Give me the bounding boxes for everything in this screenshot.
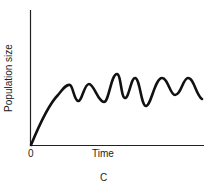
figure-caption: C <box>100 172 107 183</box>
origin-tick-label: 0 <box>28 148 34 159</box>
x-axis-label: Time <box>92 148 114 159</box>
y-axis-label: Population size <box>3 44 14 112</box>
chart-svg <box>0 0 216 193</box>
population-curve <box>31 74 202 145</box>
